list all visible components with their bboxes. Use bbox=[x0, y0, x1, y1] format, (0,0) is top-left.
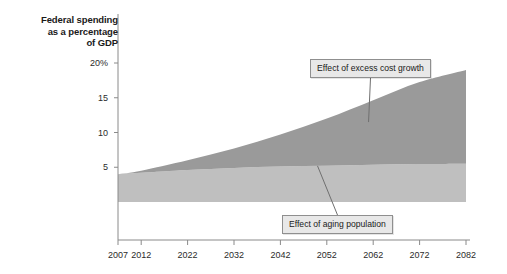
x-axis-tick-label: 2032 bbox=[214, 250, 254, 260]
x-axis-tick-marks bbox=[118, 240, 466, 245]
x-axis-tick-label: 2052 bbox=[307, 250, 347, 260]
axis-title-line-2: as a percentage bbox=[14, 26, 118, 38]
y-axis-tick-marks bbox=[114, 63, 118, 167]
x-axis-tick-label: 2042 bbox=[260, 250, 300, 260]
x-axis-tick-label: 2062 bbox=[353, 250, 393, 260]
chart-axis-title: Federal spending as a percentage of GDP bbox=[14, 14, 118, 49]
annotation-aging-population: Effect of aging population bbox=[282, 215, 393, 234]
annotation-aging-population-label: Effect of aging population bbox=[289, 219, 386, 229]
y-axis-tick-label: 20% bbox=[64, 58, 108, 68]
annotation-excess-cost-growth-label: Effect of excess cost growth bbox=[317, 63, 424, 73]
y-axis-tick-label: 10 bbox=[64, 128, 108, 138]
axis-title-line-3: of GDP bbox=[14, 37, 118, 49]
y-axis-tick-label: 5 bbox=[64, 162, 108, 172]
x-axis-tick-label: 2012 bbox=[121, 250, 161, 260]
area-band-excess-cost-growth bbox=[118, 70, 466, 174]
x-axis-tick-label: 2022 bbox=[168, 250, 208, 260]
y-axis-tick-label: 15 bbox=[64, 93, 108, 103]
annotation-excess-cost-growth: Effect of excess cost growth bbox=[310, 59, 431, 78]
x-axis-tick-label: 2072 bbox=[400, 250, 440, 260]
axis-title-line-1: Federal spending bbox=[14, 14, 118, 26]
x-axis-tick-label: 2082 bbox=[446, 250, 486, 260]
area-series-excess-cost-growth bbox=[118, 70, 466, 174]
chart-figure: Federal spending as a percentage of GDP … bbox=[0, 0, 507, 274]
